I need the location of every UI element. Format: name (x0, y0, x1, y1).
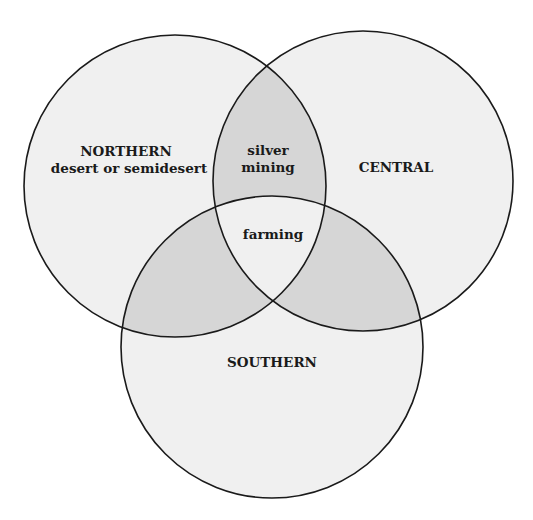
southern-label: SOUTHERN (227, 354, 317, 370)
central-label: CENTRAL (359, 159, 434, 175)
silver-mining-label-line2: mining (241, 159, 295, 175)
northern-sublabel: desert or semidesert (51, 160, 208, 176)
farming-label: farming (243, 226, 304, 242)
northern-label: NORTHERN (80, 143, 172, 159)
silver-mining-label-line1: silver (247, 142, 289, 158)
venn-diagram: NORTHERN desert or semidesert silver min… (0, 0, 533, 520)
